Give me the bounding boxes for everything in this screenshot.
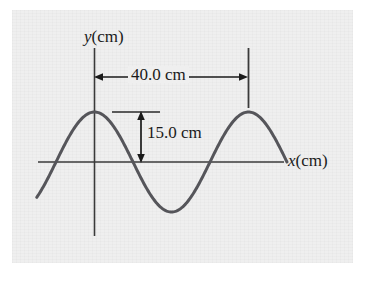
wavelength-label: 40.0 cm (128, 66, 189, 83)
y-axis-label: y(cm) (84, 28, 124, 45)
amplitude-arrow (137, 111, 145, 163)
amplitude-label: 15.0 cm (147, 124, 202, 141)
wave-figure: y(cm) x(cm) 40.0 cm 15.0 cm (0, 0, 366, 283)
x-axis-variable: x (288, 151, 296, 170)
x-axis-label: x(cm) (288, 152, 328, 169)
x-axis-unit: (cm) (296, 151, 328, 170)
y-axis-unit: (cm) (92, 27, 124, 46)
y-axis-variable: y (84, 27, 92, 46)
